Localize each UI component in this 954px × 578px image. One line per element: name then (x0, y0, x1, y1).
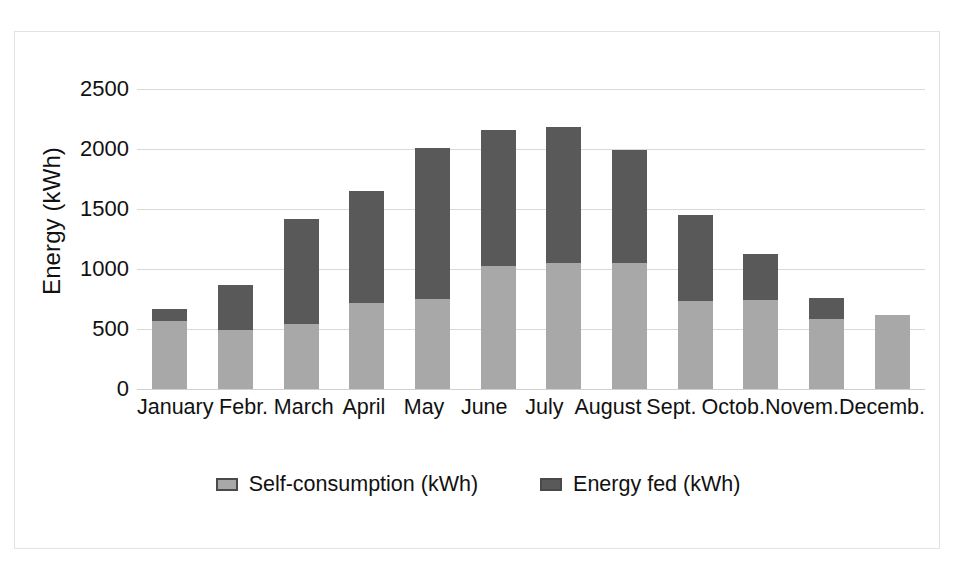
stacked-bar[interactable] (152, 309, 187, 389)
bar-slot (400, 89, 466, 389)
bar-slot (531, 89, 597, 389)
x-tick-label: March (274, 395, 334, 420)
x-tick-label: Decemb. (839, 395, 925, 420)
bar-slot (794, 89, 860, 389)
stacked-bar[interactable] (284, 219, 319, 389)
y-tick-label: 1500 (80, 196, 129, 222)
bar-segment-energy-fed[interactable] (546, 127, 581, 263)
stacked-bar[interactable] (678, 215, 713, 389)
bar-segment-self-consumption[interactable] (809, 319, 844, 389)
bar-segment-energy-fed[interactable] (743, 254, 778, 301)
x-tick-label: Octob. (702, 395, 765, 420)
bar-slot (662, 89, 728, 389)
legend-swatch-icon (216, 478, 238, 491)
x-tick-label: June (454, 395, 514, 420)
bar-slot (597, 89, 663, 389)
y-tick-label: 500 (92, 316, 129, 342)
x-tick-label: April (334, 395, 394, 420)
x-tick-label: Sept. (641, 395, 701, 420)
bar-segment-energy-fed[interactable] (415, 148, 450, 299)
bar-segment-self-consumption[interactable] (743, 300, 778, 389)
x-tick-label: January (137, 395, 214, 420)
bar-segment-energy-fed[interactable] (809, 298, 844, 319)
plot-area (137, 89, 925, 389)
bar-segment-self-consumption[interactable] (481, 266, 516, 389)
x-tick-label: July (514, 395, 574, 420)
x-tick-label: May (394, 395, 454, 420)
legend-label: Self-consumption (kWh) (249, 472, 478, 497)
stacked-bar[interactable] (481, 130, 516, 389)
bar-series-group (137, 89, 925, 389)
bar-segment-energy-fed[interactable] (218, 285, 253, 330)
bar-segment-self-consumption[interactable] (612, 263, 647, 389)
bar-segment-self-consumption[interactable] (218, 330, 253, 389)
stacked-bar[interactable] (743, 254, 778, 389)
bar-slot (859, 89, 925, 389)
bar-segment-energy-fed[interactable] (284, 219, 319, 324)
legend-swatch-icon (540, 478, 562, 491)
chart-container: Energy (kWh) 05001000150020002500 Januar… (14, 31, 940, 549)
stacked-bar[interactable] (809, 298, 844, 389)
bar-segment-self-consumption[interactable] (349, 303, 384, 389)
bar-slot (465, 89, 531, 389)
y-tick-label: 2500 (80, 76, 129, 102)
legend-item[interactable]: Energy fed (kWh) (540, 472, 740, 497)
bar-slot (268, 89, 334, 389)
bar-segment-self-consumption[interactable] (415, 299, 450, 389)
bar-segment-energy-fed[interactable] (349, 191, 384, 303)
legend-item[interactable]: Self-consumption (kWh) (216, 472, 478, 497)
y-tick-label: 0 (117, 376, 129, 402)
y-tick-label: 1000 (80, 256, 129, 282)
gridline-0 (137, 389, 925, 390)
chart-plot-wrapper: Energy (kWh) 05001000150020002500 Januar… (15, 32, 941, 550)
x-axis-tick-labels: JanuaryFebr.MarchAprilMayJuneJulyAugustS… (137, 395, 925, 420)
x-tick-label: August (574, 395, 641, 420)
bar-segment-energy-fed[interactable] (612, 150, 647, 262)
bar-segment-self-consumption[interactable] (875, 315, 910, 389)
chart-legend: Self-consumption (kWh)Energy fed (kWh) (15, 472, 941, 497)
x-tick-label: Febr. (214, 395, 274, 420)
bar-slot (137, 89, 203, 389)
stacked-bar[interactable] (612, 150, 647, 389)
bar-segment-energy-fed[interactable] (678, 215, 713, 301)
bar-segment-self-consumption[interactable] (284, 324, 319, 389)
bar-segment-energy-fed[interactable] (481, 130, 516, 266)
bar-segment-self-consumption[interactable] (152, 321, 187, 389)
y-tick-label: 2000 (80, 136, 129, 162)
stacked-bar[interactable] (218, 285, 253, 389)
stacked-bar[interactable] (349, 191, 384, 389)
bar-slot (203, 89, 269, 389)
bar-slot (334, 89, 400, 389)
bar-slot (728, 89, 794, 389)
x-tick-label: Novem. (765, 395, 839, 420)
stacked-bar[interactable] (875, 315, 910, 389)
legend-label: Energy fed (kWh) (573, 472, 740, 497)
bar-segment-energy-fed[interactable] (152, 309, 187, 321)
bar-segment-self-consumption[interactable] (546, 263, 581, 389)
bar-segment-self-consumption[interactable] (678, 301, 713, 389)
stacked-bar[interactable] (546, 127, 581, 389)
stacked-bar[interactable] (415, 148, 450, 389)
